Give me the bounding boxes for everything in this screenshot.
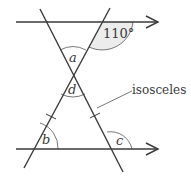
- transversal-line-2: [24, 8, 110, 168]
- angle-b-label: b: [42, 132, 50, 147]
- isosceles-label: isosceles: [132, 83, 186, 97]
- angle-110-label: 110°: [103, 26, 134, 41]
- angle-c-label: c: [116, 133, 124, 148]
- angle-d-label: d: [68, 82, 76, 97]
- isosceles-leader-line: [97, 91, 132, 108]
- angle-a-label: a: [69, 50, 77, 65]
- geometry-diagram: 110° a d b c isosceles: [0, 0, 191, 181]
